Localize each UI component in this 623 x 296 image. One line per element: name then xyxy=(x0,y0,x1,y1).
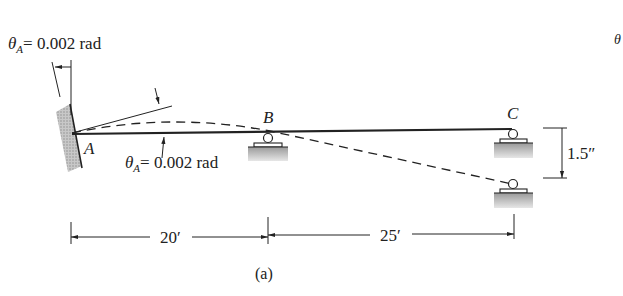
fixed-support-A xyxy=(56,104,82,172)
figure-caption: (a) xyxy=(255,265,273,283)
tangent-line xyxy=(72,88,172,133)
rotation-label-bottom: θA= 0.002 rad xyxy=(125,153,219,174)
span-label-BC: 25′ xyxy=(380,226,401,245)
span-label-AB: 20′ xyxy=(160,228,181,247)
beam xyxy=(72,129,512,134)
settlement-dimension xyxy=(543,128,567,178)
beam-diagram: θA= 0.002 rad θA= 0.002 rad A B C 1.5″ 2… xyxy=(0,0,623,296)
span-dimension-line xyxy=(71,214,514,244)
roller-support-C xyxy=(494,130,533,159)
point-label-A: A xyxy=(83,139,95,158)
roller-support-B xyxy=(248,134,288,162)
point-label-C: C xyxy=(507,104,519,123)
roller-support-C-settled xyxy=(494,180,533,209)
edge-fragment-label: θ xyxy=(614,32,621,47)
point-label-B: B xyxy=(263,108,274,127)
rotation-label-top: θA= 0.002 rad xyxy=(8,34,102,55)
settlement-label: 1.5″ xyxy=(567,144,595,163)
